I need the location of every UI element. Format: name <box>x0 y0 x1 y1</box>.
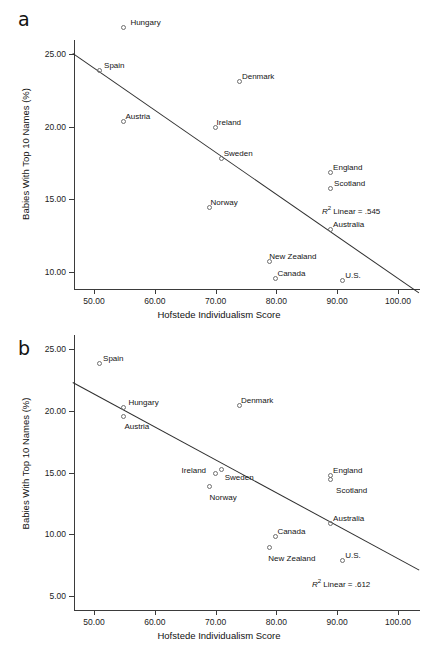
data-point-label: New Zealand <box>268 554 315 563</box>
r-squared-annotation: R2 Linear = .545 <box>322 205 380 216</box>
data-point-label: Scotland <box>336 486 367 495</box>
x-tick-label: 70.00 <box>192 617 240 627</box>
data-point-label: Australia <box>333 514 364 523</box>
x-axis-title: Hofstede Individualism Score <box>0 630 438 641</box>
data-point-marker[interactable] <box>267 545 272 550</box>
y-axis-line <box>74 335 75 610</box>
x-tick <box>155 290 156 294</box>
data-point-label: Hungary <box>128 398 158 407</box>
data-point-label: Sweden <box>224 149 253 158</box>
x-tick-label: 90.00 <box>313 296 361 306</box>
data-point-label: Canada <box>277 269 305 278</box>
x-tick-label: 80.00 <box>252 296 300 306</box>
x-tick-label: 90.00 <box>313 617 361 627</box>
x-tick-label: 50.00 <box>70 617 118 627</box>
x-tick-label: 100.00 <box>374 296 422 306</box>
data-point-marker[interactable] <box>97 361 102 366</box>
panel-a: a 25.0020.0015.0010.0050.0060.0070.0080.… <box>0 0 438 330</box>
y-tick <box>69 127 74 128</box>
y-tick <box>69 596 74 597</box>
x-tick <box>398 611 399 615</box>
data-point-marker[interactable] <box>328 477 333 482</box>
x-tick-label: 70.00 <box>192 296 240 306</box>
data-point-label: Austria <box>124 422 149 431</box>
data-point-label: Spain <box>104 61 124 70</box>
y-tick <box>69 534 74 535</box>
x-tick-label: 100.00 <box>374 617 422 627</box>
data-point-label: Ireland <box>182 466 206 475</box>
data-point-label: Hungary <box>130 18 160 27</box>
x-tick <box>276 290 277 294</box>
panel-a-letter: a <box>18 8 30 30</box>
x-tick-label: 60.00 <box>131 296 179 306</box>
x-tick <box>94 290 95 294</box>
data-point-label: Ireland <box>217 118 241 127</box>
regression-line <box>72 53 419 294</box>
x-tick <box>94 611 95 615</box>
data-point-label: U.S. <box>345 551 361 560</box>
data-point-label: Canada <box>277 527 305 536</box>
x-tick <box>216 290 217 294</box>
x-tick <box>398 290 399 294</box>
x-axis-line <box>74 610 420 611</box>
x-tick-label: 80.00 <box>252 617 300 627</box>
data-point-marker[interactable] <box>328 186 333 191</box>
panel-b: b 25.0020.0015.0010.005.0050.0060.0070.0… <box>0 327 438 657</box>
y-axis-title: Babies With Top 10 Names (%) <box>20 325 31 602</box>
data-point-marker[interactable] <box>207 484 212 489</box>
data-point-label: Austria <box>125 112 150 121</box>
x-tick <box>216 611 217 615</box>
data-point-label: Norway <box>211 198 238 207</box>
data-point-marker[interactable] <box>219 467 224 472</box>
r-squared-annotation: R2 Linear = .612 <box>312 578 370 589</box>
y-tick <box>69 473 74 474</box>
data-point-label: New Zealand <box>269 252 316 261</box>
data-point-label: Denmark <box>242 72 274 81</box>
data-point-label: U.S. <box>345 271 361 280</box>
data-point-label: England <box>333 163 362 172</box>
x-tick <box>337 611 338 615</box>
y-tick <box>69 349 74 350</box>
data-point-label: Sweden <box>225 473 254 482</box>
x-tick-label: 60.00 <box>131 617 179 627</box>
x-tick <box>276 611 277 615</box>
y-tick <box>69 272 74 273</box>
y-tick <box>69 199 74 200</box>
x-axis-line <box>74 289 420 290</box>
data-point-label: England <box>333 466 362 475</box>
x-axis-title: Hofstede Individualism Score <box>0 309 438 320</box>
data-point-label: Scotland <box>334 179 365 188</box>
data-point-label: Norway <box>210 493 237 502</box>
data-point-marker[interactable] <box>213 471 218 476</box>
data-point-marker[interactable] <box>121 414 126 419</box>
y-axis-title: Babies With Top 10 Names (%) <box>20 30 31 278</box>
figure-scatterplots: a 25.0020.0015.0010.0050.0060.0070.0080.… <box>0 0 438 657</box>
data-point-label: Australia <box>333 220 364 229</box>
data-point-marker[interactable] <box>121 25 126 30</box>
y-tick <box>69 411 74 412</box>
x-tick-label: 50.00 <box>70 296 118 306</box>
data-point-label: Denmark <box>241 396 273 405</box>
y-axis-line <box>74 40 75 289</box>
data-point-label: Spain <box>103 354 123 363</box>
x-tick <box>337 290 338 294</box>
x-tick <box>155 611 156 615</box>
